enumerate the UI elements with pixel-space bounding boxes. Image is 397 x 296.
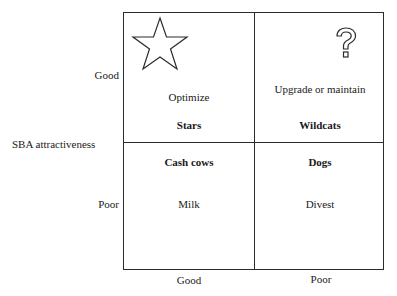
quadrant-dogs-name: Dogs — [308, 156, 331, 169]
y-axis-title: SBA attractiveness — [12, 138, 95, 151]
quadrant-wildcats-name: Wildcats — [299, 119, 340, 132]
quadrant-stars-strategy: Optimize — [169, 91, 210, 104]
x-axis-tick-good: Good — [177, 274, 201, 287]
matrix-horizontal-divider — [123, 142, 384, 143]
quadrant-wildcats-strategy: Upgrade or maintain — [274, 83, 365, 96]
quadrant-stars-name: Stars — [177, 119, 201, 132]
quadrant-dogs-strategy: Divest — [306, 198, 335, 211]
quadrant-cash-cows-name: Cash cows — [164, 156, 213, 169]
x-axis-tick-poor: Poor — [311, 273, 332, 286]
quadrant-cash-cows-strategy: Milk — [178, 198, 199, 211]
star-icon — [133, 17, 189, 71]
question-mark-icon — [335, 27, 357, 61]
y-axis-tick-good: Good — [95, 69, 119, 82]
y-axis-tick-poor: Poor — [98, 198, 119, 211]
matrix-vertical-divider — [254, 12, 255, 270]
